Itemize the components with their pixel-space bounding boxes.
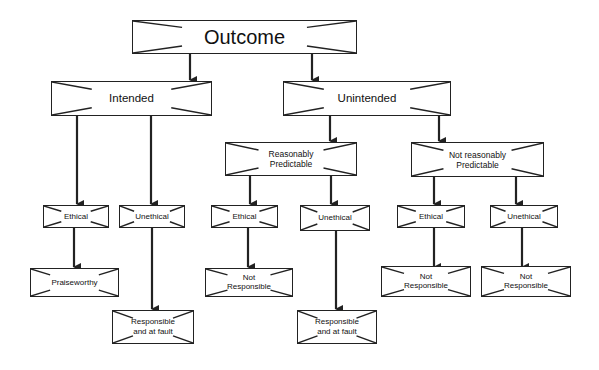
node-nrp-ethical-result: Not Responsible bbox=[381, 266, 471, 297]
node-label: Outcome bbox=[133, 25, 356, 49]
node-label: Not Responsible bbox=[482, 272, 570, 291]
node-rp-ethical-result: Not Responsible bbox=[205, 268, 293, 297]
node-intended: Intended bbox=[51, 81, 212, 116]
node-label: Not reasonably Predictable bbox=[412, 149, 543, 169]
node-rp-unethical: Unethical bbox=[300, 205, 370, 231]
node-rp-ethical: Ethical bbox=[211, 205, 278, 228]
node-label: Responsible and at fault bbox=[113, 317, 193, 336]
node-label: Unintended bbox=[284, 92, 450, 106]
node-nrp-ethical: Ethical bbox=[397, 205, 465, 228]
node-label: Unethical bbox=[301, 213, 369, 223]
node-unintended: Unintended bbox=[283, 81, 451, 116]
node-praiseworthy: Praiseworthy bbox=[30, 268, 119, 297]
node-not-reasonably-predictable: Not reasonably Predictable bbox=[411, 142, 544, 177]
node-nrp-unethical: Unethical bbox=[490, 205, 558, 228]
node-label: Intended bbox=[52, 92, 211, 106]
node-label: Ethical bbox=[398, 212, 464, 222]
outcome-responsibility-diagram: Outcome Intended Unintended Reasonably P… bbox=[0, 0, 599, 370]
node-label: Ethical bbox=[212, 212, 277, 222]
node-reasonably-predictable: Reasonably Predictable bbox=[225, 142, 357, 176]
node-label: Praiseworthy bbox=[31, 278, 118, 288]
node-intended-ethical: Ethical bbox=[43, 205, 109, 228]
node-rp-unethical-result: Responsible and at fault bbox=[297, 310, 377, 344]
node-label: Not Responsible bbox=[206, 273, 292, 292]
node-label: Unethical bbox=[491, 212, 557, 222]
node-label: Not Responsible bbox=[382, 272, 470, 291]
node-intended-unethical: Unethical bbox=[119, 205, 185, 228]
node-label: Reasonably Predictable bbox=[226, 149, 356, 169]
node-nrp-unethical-result: Not Responsible bbox=[481, 266, 571, 297]
node-label: Ethical bbox=[44, 212, 108, 222]
node-outcome: Outcome bbox=[132, 20, 357, 54]
node-intended-unethical-result: Responsible and at fault bbox=[112, 310, 194, 344]
node-label: Responsible and at fault bbox=[298, 317, 376, 336]
node-label: Unethical bbox=[120, 212, 184, 222]
